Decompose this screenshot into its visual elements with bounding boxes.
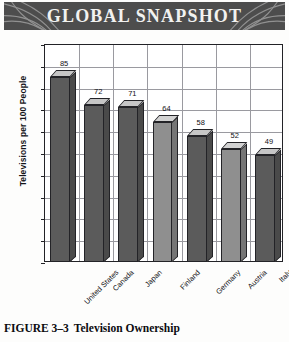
x-axis-labels: United StatesCanadaJapanFinlandGermanyAu… — [44, 266, 283, 314]
global-snapshot-banner: GLOBAL SNAPSHOT — [4, 2, 285, 30]
bar-italy — [255, 155, 275, 262]
bar-front-face — [50, 77, 70, 262]
x-axis-label-finland: Finland — [178, 268, 202, 292]
bar-value-label: 49 — [249, 137, 289, 146]
figure-caption: FIGURE 3–3Television Ownership — [4, 322, 285, 334]
bar-side-face — [275, 150, 281, 262]
figure-title: Television Ownership — [74, 322, 180, 334]
x-axis-label-italy: Italy — [277, 268, 289, 284]
bar-finland — [153, 122, 173, 262]
x-axis-label-austria: Austria — [246, 268, 269, 291]
bar-side-face — [241, 143, 247, 262]
bar-side-face — [138, 102, 144, 262]
bar-front-face — [221, 149, 241, 262]
bar-value-label: 85 — [44, 59, 84, 68]
bar-front-face — [153, 122, 173, 262]
bar-value-label: 64 — [147, 104, 187, 113]
bar-value-label: 58 — [181, 118, 221, 127]
bar-side-face — [172, 117, 178, 262]
bar-austria — [221, 149, 241, 262]
x-axis-label-japan: Japan — [143, 268, 164, 289]
bar-united-states — [50, 77, 70, 262]
bar-value-label: 71 — [112, 89, 152, 98]
bar-side-face — [70, 71, 76, 262]
x-axis-label-germany: Germany — [214, 268, 242, 296]
bar-side-face — [104, 100, 110, 262]
bar-japan — [118, 107, 138, 262]
bar-front-face — [187, 136, 207, 262]
bar-series: 85727164585249 — [44, 44, 283, 262]
y-axis-title: Televisions per 100 People — [18, 56, 28, 206]
chart-area: Televisions per 100 People 0102030405060… — [0, 34, 289, 316]
bar-front-face — [118, 107, 138, 262]
bar-canada — [84, 105, 104, 262]
bar-front-face — [255, 155, 275, 262]
y-axis-tick-mark — [41, 263, 45, 264]
figure-container: GLOBAL SNAPSHOT Televisions per 100 Peop… — [0, 0, 289, 342]
bar-front-face — [84, 105, 104, 262]
bar-germany — [187, 136, 207, 262]
banner-title: GLOBAL SNAPSHOT — [4, 2, 285, 30]
figure-number: FIGURE 3–3 — [4, 322, 69, 334]
bar-side-face — [207, 130, 213, 262]
